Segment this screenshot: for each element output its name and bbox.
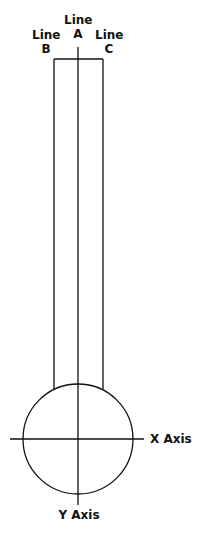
label-line-b-letter: B bbox=[32, 42, 60, 56]
label-line-c: Line C bbox=[95, 28, 123, 56]
label-line-c-letter: C bbox=[95, 42, 123, 56]
diagram-canvas bbox=[0, 0, 210, 541]
label-line-a: Line A bbox=[64, 13, 92, 41]
label-x-axis: X Axis bbox=[150, 432, 192, 446]
label-y-axis: Y Axis bbox=[58, 508, 100, 522]
label-line-c-word: Line bbox=[95, 28, 123, 42]
label-line-a-word: Line bbox=[64, 13, 92, 27]
label-line-b-word: Line bbox=[32, 28, 60, 42]
label-line-a-letter: A bbox=[64, 27, 92, 41]
label-line-b: Line B bbox=[32, 28, 60, 56]
